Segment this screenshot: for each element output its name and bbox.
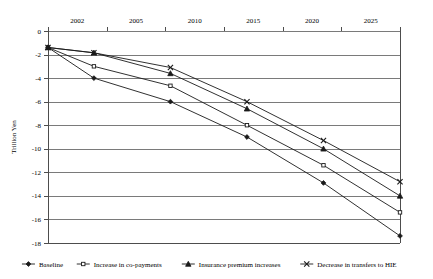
x-tick-label: 2025 [364, 17, 379, 25]
y-tick-label: -10 [32, 145, 42, 153]
y-tick-label: -4 [35, 75, 41, 83]
series-baseline [46, 45, 403, 238]
data-point-marker [322, 164, 325, 167]
data-point-marker [398, 211, 401, 214]
y-tick-label: -14 [32, 192, 42, 200]
y-tick-label: 0 [38, 28, 42, 36]
data-point-marker [169, 84, 172, 87]
data-series-group [45, 45, 402, 239]
data-point-marker [92, 76, 97, 81]
data-point-marker [26, 262, 31, 267]
legend-label: Decrease in transfers to HIE [317, 261, 396, 269]
gridlines-group [48, 32, 400, 244]
x-tick-label: 2005 [129, 17, 144, 25]
x-axis-tick-labels: 200220052010201520202025 [70, 17, 378, 25]
data-point-marker [397, 193, 402, 198]
legend-item[interactable]: Baseline [22, 261, 63, 269]
legend-item[interactable]: Decrease in transfers to HIE [300, 261, 396, 269]
data-point-marker [92, 65, 95, 68]
y-tick-label: -16 [32, 216, 42, 224]
data-point-marker [245, 124, 248, 127]
legend-item[interactable]: Increase in co-payments [77, 261, 162, 269]
data-point-marker [245, 135, 250, 140]
x-tickmarks-group [49, 27, 401, 31]
y-tick-label: -8 [35, 122, 41, 130]
data-point-marker [168, 99, 173, 104]
x-tick-label: 2020 [305, 17, 320, 25]
y-tick-label: -2 [35, 51, 41, 59]
series-increase-in-co-payments [46, 46, 401, 214]
data-point-marker [321, 146, 326, 151]
y-axis-title: Trillion Yen [10, 120, 18, 154]
legend-label: Increase in co-payments [94, 261, 162, 269]
x-tick-label: 2010 [188, 17, 203, 25]
x-tick-label: 2002 [70, 17, 85, 25]
legend-item[interactable]: Insurance premium increases [182, 261, 281, 269]
chart-legend: BaselineIncrease in co-paymentsInsurance… [22, 261, 397, 269]
plot-frame [48, 31, 401, 244]
series-decrease-in-transfers-to-hie [45, 45, 402, 184]
y-axis-tick-labels: 0-2-4-6-8-10-12-14-16-18 [32, 28, 42, 248]
x-tick-label: 2015 [246, 17, 261, 25]
chart-figure: 200220052010201520202025 0-2-4-6-8-10-12… [0, 0, 433, 279]
y-tick-label: -6 [35, 98, 41, 106]
data-point-marker [82, 262, 85, 265]
series-line [48, 47, 400, 212]
data-point-marker [321, 138, 326, 143]
legend-label: Baseline [39, 261, 63, 269]
y-tick-label: -12 [32, 169, 42, 177]
y-tick-label: -18 [32, 240, 42, 248]
y-tickmarks-group [44, 32, 48, 244]
legend-label: Insurance premium increases [199, 261, 281, 269]
series-line [48, 47, 400, 195]
line-chart: 200220052010201520202025 0-2-4-6-8-10-12… [0, 0, 433, 279]
series-line [48, 47, 400, 235]
y-axis-title-group: Trillion Yen [10, 120, 18, 154]
data-point-marker [244, 106, 249, 111]
